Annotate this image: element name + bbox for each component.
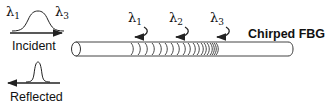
reflection-lambda1-label: λ1 (128, 10, 142, 27)
reflected-spectrum: Reflected (8, 62, 63, 104)
reflection-point-1: λ1 (128, 10, 147, 37)
reflection-lambda2-label: λ2 (169, 10, 183, 27)
reflection-arrow-3 (217, 27, 229, 37)
incident-lambda3-label: λ3 (55, 4, 69, 21)
incident-lambda1-label: λ1 (6, 4, 20, 21)
reflection-arrow-2 (176, 27, 188, 37)
chirped-fbg-diagram: λ1 λ3 Incident Reflected (0, 0, 331, 108)
reflection-lambda3-label: λ3 (210, 10, 224, 27)
narrowband-spectrum-curve (26, 62, 50, 82)
chirped-grating (131, 43, 218, 55)
fiber-output-end (288, 42, 293, 56)
reflected-label: Reflected (10, 90, 63, 104)
chirped-fbg-title: Chirped FBG (248, 27, 325, 41)
incident-label: Incident (12, 39, 56, 53)
incident-spectrum: λ1 λ3 Incident (6, 4, 69, 53)
optical-fiber (72, 42, 294, 56)
fiber-input-end (72, 42, 81, 56)
reflection-point-2: λ2 (169, 10, 188, 37)
reflection-arrow-1 (135, 27, 147, 37)
reflection-point-3: λ3 (210, 10, 229, 37)
